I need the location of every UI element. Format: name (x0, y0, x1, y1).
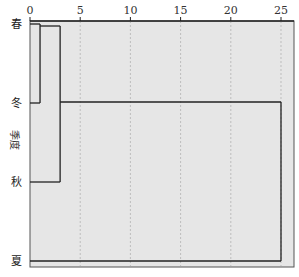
x-tick-label: 0 (27, 4, 34, 17)
y-axis-title: 季度 (9, 130, 21, 150)
x-tick-label: 5 (77, 4, 84, 17)
dendrogram-chart: 0510152025 春冬秋夏 季度 (0, 0, 299, 277)
leaf-label: 夏 (11, 255, 22, 268)
x-tick-label: 10 (123, 4, 137, 17)
x-tick-label: 25 (274, 4, 288, 17)
leaf-label: 冬 (11, 96, 22, 110)
leaf-label: 秋 (11, 175, 22, 189)
leaf-label: 春 (11, 18, 22, 31)
x-axis-ticks: 0510152025 (27, 4, 289, 21)
x-tick-label: 15 (174, 4, 188, 17)
plot-area (30, 21, 294, 267)
x-tick-label: 20 (224, 4, 238, 17)
